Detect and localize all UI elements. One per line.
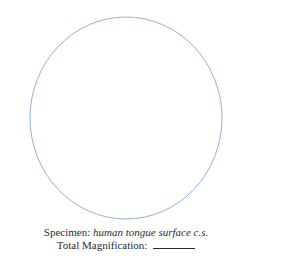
magnification-label: Total Magnification: [57, 239, 150, 251]
specimen-label: Specimen: [44, 226, 93, 238]
magnification-caption: Total Magnification: [0, 239, 252, 251]
microscope-field-circle [0, 0, 287, 259]
specimen-value: human tongue surface c.s. [93, 226, 208, 238]
magnification-blank[interactable] [153, 239, 195, 249]
specimen-caption: Specimen: human tongue surface c.s. [0, 226, 252, 238]
